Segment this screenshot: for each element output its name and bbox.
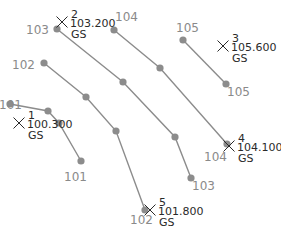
point-description-code: GS <box>28 129 44 142</box>
point-description-code: GS <box>159 216 175 228</box>
survey-point-4[interactable]: 4104.100GS <box>224 132 282 165</box>
contour-elevation-label: 104 <box>115 10 138 24</box>
contour-elevation-label: 102 <box>12 58 35 72</box>
vertex-grip[interactable] <box>40 59 47 66</box>
contour-elevation-label: 103 <box>26 23 49 37</box>
contour-103[interactable]: 103103 <box>26 23 215 193</box>
contour-elevation-label: 105 <box>176 21 199 35</box>
contour-polyline[interactable] <box>44 63 145 210</box>
vertex-grip[interactable] <box>119 78 126 85</box>
contour-polyline[interactable] <box>114 30 227 144</box>
vertex-grip[interactable] <box>156 64 163 71</box>
contour-elevation-label: 103 <box>192 179 215 193</box>
vertex-grip[interactable] <box>112 127 119 134</box>
contour-elevation-label: 101 <box>64 170 87 184</box>
survey-points-layer: 1100.300GS2103.200GS3105.600GS4104.100GS… <box>14 8 282 228</box>
vertex-grip[interactable] <box>82 93 89 100</box>
contour-102[interactable]: 102102 <box>12 58 153 227</box>
contour-elevation-label: 101 <box>0 98 22 112</box>
vertex-grip[interactable] <box>44 107 51 114</box>
survey-point-5[interactable]: 5101.800GS <box>145 196 204 228</box>
contour-drawing-canvas[interactable]: 101101102102103103104104105105 1100.300G… <box>0 0 281 228</box>
survey-point-1[interactable]: 1100.300GS <box>14 109 73 142</box>
vertex-grip[interactable] <box>77 157 84 164</box>
contour-elevation-label: 105 <box>227 85 250 99</box>
point-description-code: GS <box>71 28 87 41</box>
contour-elevation-label: 104 <box>204 150 227 164</box>
point-description-code: GS <box>238 152 254 165</box>
point-description-code: GS <box>232 52 248 65</box>
vertex-grip[interactable] <box>179 36 186 43</box>
survey-point-3[interactable]: 3105.600GS <box>218 32 277 65</box>
contour-elevation-label: 102 <box>130 213 153 227</box>
vertex-grip[interactable] <box>171 133 178 140</box>
contour-polyline[interactable] <box>183 40 226 84</box>
